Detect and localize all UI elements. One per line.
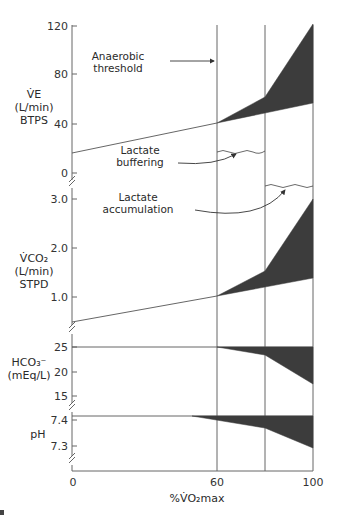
anaerobic-label-1: Anaerobic xyxy=(92,50,145,62)
corner-mark xyxy=(0,510,4,515)
x-tick-60: 60 xyxy=(210,476,224,489)
buffering-label-2: buffering xyxy=(116,156,164,168)
ve-ticks xyxy=(72,26,77,173)
ve-label-3: BTPS xyxy=(20,114,48,127)
ve-tick-0: 0 xyxy=(61,167,68,180)
hco3-ticks xyxy=(72,347,77,396)
hco3-tick-20: 20 xyxy=(54,366,68,379)
ve-tick-40: 40 xyxy=(54,118,68,131)
vco2-tick-1: 1.0 xyxy=(51,291,69,304)
vco2-label-2: (L/min) xyxy=(14,265,53,278)
ph-decline-area xyxy=(192,416,313,448)
vco2-label-3: STPD xyxy=(20,278,49,291)
accumulation-brace xyxy=(265,185,313,188)
buffering-label-1: Lactate xyxy=(120,144,159,156)
hco3-label-2: (mEq/L) xyxy=(7,369,50,382)
accumulation-arrow xyxy=(195,190,285,213)
accumulation-label-2: accumulation xyxy=(103,203,174,215)
hco3-label-1: HCO₃⁻ xyxy=(12,356,47,369)
ve-label-1: V̇E xyxy=(27,88,42,101)
ph-tick-7-4: 7.4 xyxy=(51,414,69,427)
ve-label-2: (L/min) xyxy=(14,101,53,114)
x-tick-100: 100 xyxy=(303,476,324,489)
vco2-tick-3: 3.0 xyxy=(51,193,69,206)
hco3-tick-25: 25 xyxy=(54,341,68,354)
x-tick-0: 0 xyxy=(70,476,77,489)
buffering-arrow xyxy=(178,154,236,164)
x-axis-title: %V̇O₂max xyxy=(169,492,225,505)
buffering-brace xyxy=(217,151,265,154)
accumulation-label-1: Lactate xyxy=(118,191,157,203)
vco2-linear-line xyxy=(72,296,217,322)
vco2-label-1: V̇CO₂ xyxy=(20,252,48,265)
ph-tick-7-3: 7.3 xyxy=(51,440,69,453)
ve-tick-120: 120 xyxy=(47,20,68,33)
ve-tick-80: 80 xyxy=(54,68,68,81)
ph-ticks xyxy=(72,420,77,446)
exercise-physiology-chart: 120 80 40 0 V̇E (L/min) BTPS 3.0 2.0 1.0… xyxy=(0,0,339,515)
anaerobic-label-2: threshold xyxy=(93,62,142,74)
hco3-tick-15: 15 xyxy=(54,390,68,403)
vco2-tick-2: 2.0 xyxy=(51,242,69,255)
vco2-ticks xyxy=(72,199,77,297)
ph-label: pH xyxy=(30,428,45,441)
